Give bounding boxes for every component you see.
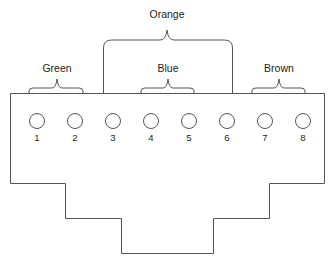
pin-number: 7 bbox=[262, 132, 267, 143]
pin-5: 5 bbox=[182, 114, 197, 144]
pin-number: 4 bbox=[148, 132, 153, 143]
pin-hole bbox=[144, 114, 159, 129]
pin-number: 1 bbox=[34, 132, 39, 143]
blue-pair-bracket bbox=[141, 79, 194, 93]
rj45-diagram: Orange Green Blue Brown 1 2 3 4 5 6 7 8 bbox=[0, 0, 335, 264]
pin-number: 8 bbox=[300, 132, 305, 143]
connector-outline bbox=[11, 94, 325, 254]
green-pair-bracket bbox=[29, 79, 83, 93]
orange-label: Orange bbox=[149, 8, 184, 20]
pin-hole bbox=[296, 114, 311, 129]
pin-number: 3 bbox=[110, 132, 115, 143]
pin-4: 4 bbox=[144, 114, 159, 144]
pin-hole bbox=[258, 114, 273, 129]
pin-hole bbox=[220, 114, 235, 129]
pin-7: 7 bbox=[258, 114, 273, 144]
pin-hole bbox=[30, 114, 45, 129]
pin-number: 6 bbox=[224, 132, 229, 143]
pin-3: 3 bbox=[106, 114, 121, 144]
brown-pair-bracket bbox=[252, 79, 305, 93]
pin-6: 6 bbox=[220, 114, 235, 144]
pin-hole bbox=[106, 114, 121, 129]
green-label: Green bbox=[42, 62, 71, 74]
pin-hole bbox=[182, 114, 197, 129]
pin-1: 1 bbox=[30, 114, 45, 144]
pin-number: 2 bbox=[72, 132, 77, 143]
pin-hole bbox=[68, 114, 83, 129]
pin-8: 8 bbox=[296, 114, 311, 144]
pin-number: 5 bbox=[186, 132, 191, 143]
blue-label: Blue bbox=[157, 62, 178, 74]
pin-2: 2 bbox=[68, 114, 83, 144]
brown-label: Brown bbox=[264, 62, 294, 74]
